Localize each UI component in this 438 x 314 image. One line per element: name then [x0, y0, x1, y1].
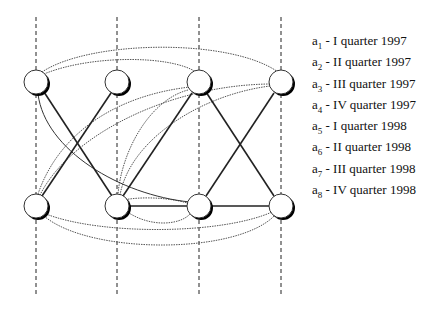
legend-item-a3: a3 - III quarter 1997 — [312, 73, 416, 94]
node-top-4 — [269, 70, 295, 96]
legend-item-a1: a1 - I quarter 1997 — [312, 30, 416, 51]
node-bottom-2 — [105, 194, 131, 220]
edge-bottom2-to-bottom3 — [126, 211, 190, 223]
node-top-3 — [187, 70, 213, 96]
legend-item-a8: a8 - IV quarter 1998 — [312, 179, 416, 200]
node-top-1 — [24, 70, 50, 96]
edge-top3-to-bottom2 — [118, 90, 188, 194]
solid-curve-edges — [38, 94, 190, 202]
edge-top-outer — [42, 47, 278, 72]
edge-bottom-inner — [46, 212, 272, 230]
node-bottom-4 — [269, 194, 295, 220]
legend-item-a7: a7 - III quarter 1998 — [312, 158, 416, 179]
node-bottom-1 — [24, 194, 50, 220]
solid-edges — [42, 92, 274, 206]
legend-item-a5: a5 - I quarter 1998 — [312, 115, 416, 136]
edge-a2-a5 — [42, 93, 111, 196]
legend: a1 - I quarter 1997 a2 - II quarter 1997… — [312, 30, 416, 200]
node-bottom-3 — [187, 194, 213, 220]
legend-item-a2: a2 - II quarter 1997 — [312, 51, 416, 72]
legend-item-a4: a4 - IV quarter 1997 — [312, 94, 416, 115]
node-top-2 — [105, 70, 131, 96]
edge-top4-to-bottom2 — [120, 86, 270, 195]
legend-item-a6: a6 - II quarter 1998 — [312, 136, 416, 157]
edge-top1-to-bottom3-curve — [38, 94, 190, 202]
